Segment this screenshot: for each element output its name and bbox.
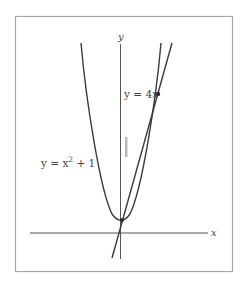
line-label-base: y = 4: [123, 88, 152, 100]
parabola-equation-label: y = x2 + 1: [40, 155, 95, 169]
y-axis-label: y: [117, 31, 124, 42]
unit-marker: [125, 137, 128, 157]
lower-intersection-point: [120, 218, 124, 222]
parabola-label-base: y = x: [40, 157, 68, 169]
x-axis-label: x: [211, 227, 217, 238]
graph-figure: x y y = 4x y = x2 + 1: [0, 0, 241, 290]
line-label-var: x: [152, 88, 158, 100]
line-equation-label: y = 4x: [123, 88, 158, 100]
parabola-label-tail: + 1: [73, 157, 95, 169]
